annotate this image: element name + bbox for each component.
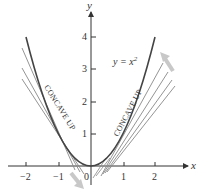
x-tick-neg2: −2: [20, 171, 31, 182]
x-axis-label: x: [190, 159, 196, 171]
x-tick-neg1: −1: [53, 171, 64, 182]
y-tick-2: 2: [82, 96, 87, 107]
concavity-diagram: −2 −1 0 1 2 1 2 3 4 x y y = x2 CONCAVE U…: [0, 0, 216, 195]
y-tick-4: 4: [82, 31, 87, 42]
x-tick-0: 0: [84, 171, 89, 182]
right-tangent-lines: [101, 63, 175, 176]
down-right-arrow: [71, 173, 84, 189]
up-right-arrow: [160, 52, 173, 71]
y-tick-1: 1: [82, 128, 87, 139]
y-tick-3: 3: [82, 63, 87, 74]
y-axis-label: y: [86, 0, 92, 11]
x-tick-1: 1: [121, 171, 126, 182]
x-tick-2: 2: [152, 171, 157, 182]
left-tangent-lines: [22, 48, 84, 174]
curve-equation-label: y = x2: [112, 55, 138, 67]
y-axis: [91, 12, 96, 185]
